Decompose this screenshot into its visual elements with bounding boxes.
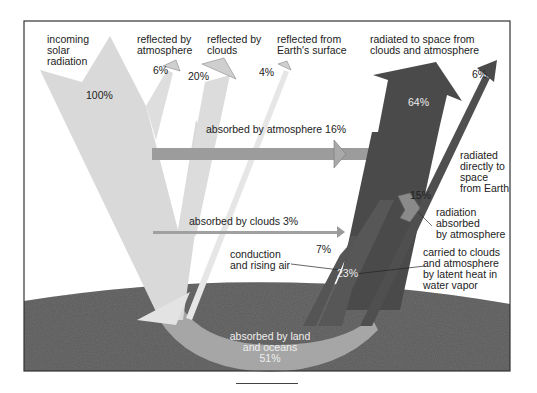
value-radiation-absorbed: 15% (410, 189, 431, 201)
label-reflected-surface: reflected from Earth's surface (277, 34, 347, 56)
value-reflected-surface: 4% (259, 66, 274, 78)
value-latent-heat: 23% (337, 267, 358, 279)
label-radiated-directly: radiated directly to space from Earth (460, 150, 509, 194)
label-reflected-clouds: reflected by clouds (207, 34, 261, 56)
label-radiated-clouds-atmosphere: radiated to space from clouds and atmosp… (370, 34, 479, 56)
caption-rule (236, 383, 298, 384)
value-conduction: 7% (316, 243, 331, 255)
energy-balance-diagram: incoming solar radiation 100% reflected … (0, 0, 537, 393)
incoming-solar-arrow (40, 36, 208, 320)
reflected-surface-arrowhead (278, 61, 291, 70)
label-land-oceans: absorbed by land and oceans 51% (222, 331, 318, 364)
label-radiation-absorbed: radiation absorbed by atmosphere (436, 207, 505, 240)
label-reflected-atmosphere: reflected by atmosphere (137, 34, 192, 56)
label-absorbed-atmosphere: absorbed by atmosphere 16% (206, 124, 346, 135)
absorbed-clouds-band (153, 231, 343, 234)
value-radiated-clouds-atmosphere: 64% (408, 96, 429, 108)
value-reflected-clouds: 20% (188, 70, 209, 82)
value-radiated-directly: 6% (472, 68, 487, 80)
label-incoming-solar-radiation: incoming solar radiation (47, 34, 89, 67)
label-latent-heat: carried to clouds and atmosphere by late… (423, 247, 500, 291)
conduction-leader (291, 264, 340, 270)
value-incoming: 100% (86, 89, 113, 101)
label-absorbed-clouds: absorbed by clouds 3% (189, 216, 298, 227)
absorbed-atmosphere-arrowhead (334, 140, 346, 168)
value-reflected-atmosphere: 6% (153, 64, 168, 76)
label-conduction: conduction and rising air (230, 249, 290, 271)
absorbed-clouds-arrowhead (337, 226, 345, 238)
